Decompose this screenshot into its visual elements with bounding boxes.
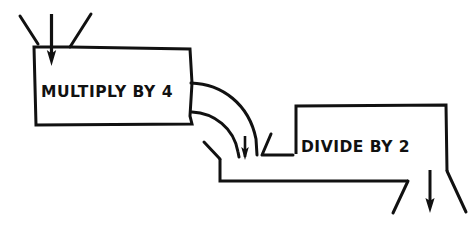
multiply-box-top-notch <box>70 14 91 47</box>
lower-channel-path <box>220 159 408 181</box>
pipe-inner-curve <box>192 112 239 157</box>
divide-box-label: DIVIDE BY 2 <box>301 138 410 156</box>
input-arrow <box>47 14 56 66</box>
output-right-tick <box>447 171 466 212</box>
pipe-bend-connector <box>191 83 257 160</box>
output-arrow <box>393 170 466 213</box>
output-left-tick <box>393 181 408 213</box>
diagram-canvas: MULTIPLY BY 4 DIVIDE BY 2 <box>0 0 476 230</box>
lower-channel-notch <box>204 142 220 159</box>
pipe-outer-curve <box>191 83 257 155</box>
divide-box-inlet-notch <box>262 134 293 155</box>
flow-diagram: MULTIPLY BY 4 DIVIDE BY 2 <box>0 0 476 230</box>
multiply-box-label: MULTIPLY BY 4 <box>41 83 173 101</box>
multiply-box-left-notch <box>20 16 38 44</box>
